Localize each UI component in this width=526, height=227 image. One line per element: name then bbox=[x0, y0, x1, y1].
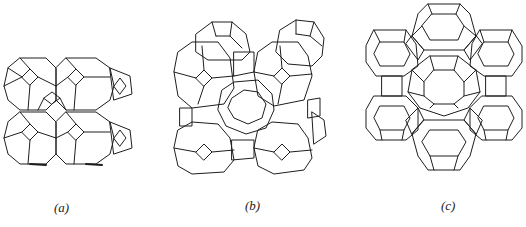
panel-c-label: (c) bbox=[441, 198, 455, 214]
sodalite-cage-framework-a-drawing bbox=[0, 54, 136, 168]
sodalite-cage-framework-b-drawing bbox=[162, 12, 330, 176]
panel-a-label: (a) bbox=[54, 200, 69, 216]
panel-b-label: (b) bbox=[245, 198, 260, 214]
panel-a-structure bbox=[0, 54, 136, 168]
panel-c-structure bbox=[360, 0, 526, 174]
faujasite-supercage-drawing-c bbox=[360, 0, 526, 174]
panel-b-structure bbox=[162, 12, 330, 176]
